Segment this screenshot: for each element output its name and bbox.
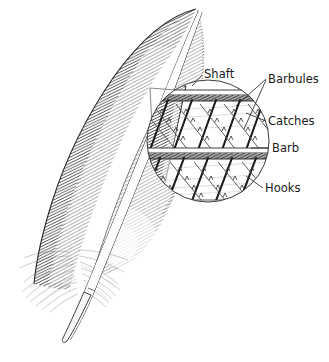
label-hooks: Hooks xyxy=(265,181,301,195)
feather-anatomy-figure: Shaft Barbules Catches Barb Hooks xyxy=(0,0,329,362)
label-barbules: Barbules xyxy=(268,72,319,86)
label-shaft: Shaft xyxy=(204,67,235,81)
label-catches: Catches xyxy=(268,114,315,128)
feather-illustration: Shaft Barbules Catches Barb Hooks xyxy=(0,0,329,362)
label-barb: Barb xyxy=(272,141,299,155)
